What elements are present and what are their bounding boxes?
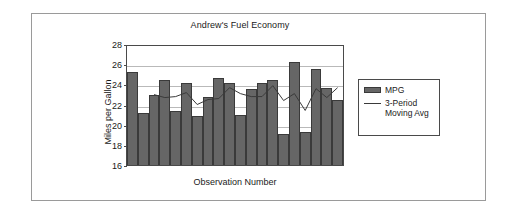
- y-axis-tick-28: 28: [100, 40, 122, 50]
- y-axis-tickmark: [124, 146, 127, 147]
- y-axis-tick-26: 26: [100, 60, 122, 70]
- bar: [127, 72, 138, 165]
- legend-item-mpg: MPG: [364, 85, 439, 95]
- y-axis-tick-20: 20: [100, 121, 122, 131]
- y-axis-tick-16: 16: [100, 161, 122, 171]
- bar: [213, 78, 224, 165]
- bar: [159, 80, 170, 165]
- legend-line-icon: [364, 100, 381, 104]
- bar: [203, 97, 214, 165]
- bar: [332, 100, 343, 165]
- y-axis-tickmark: [124, 85, 127, 86]
- y-axis-tickmark: [124, 45, 127, 46]
- bar: [192, 116, 203, 165]
- y-axis-tick-24: 24: [100, 80, 122, 90]
- chart-legend: MPG 3-Period Moving Avg: [358, 79, 440, 136]
- y-axis-tick-18: 18: [100, 141, 122, 151]
- plot-area: [126, 45, 344, 166]
- bar-series-mpg: [127, 46, 343, 165]
- legend-swatch-icon: [364, 87, 381, 93]
- bar: [311, 69, 322, 165]
- y-axis-tickmark: [124, 166, 127, 167]
- legend-item-moving-avg: 3-Period Moving Avg: [364, 98, 439, 118]
- y-axis-tickmark: [124, 126, 127, 127]
- y-axis-tickmark: [124, 65, 127, 66]
- chart-screenshot: Andrew's Fuel Economy Miles per Gallon 2…: [0, 0, 518, 219]
- bar: [235, 115, 246, 165]
- bar: [181, 83, 192, 165]
- bar: [138, 113, 149, 165]
- chart-title: Andrew's Fuel Economy: [120, 20, 360, 30]
- bar: [267, 80, 278, 165]
- bar: [289, 62, 300, 165]
- y-axis-tick-22: 22: [100, 101, 122, 111]
- bar: [224, 83, 235, 165]
- bar: [300, 132, 311, 165]
- bar: [170, 111, 181, 165]
- bar: [321, 88, 332, 165]
- y-axis-tick-labels: 28262422201816: [98, 45, 122, 166]
- legend-label-mpg: MPG: [385, 85, 404, 95]
- legend-label-moving-avg: 3-Period Moving Avg: [385, 98, 439, 118]
- bar: [278, 134, 289, 165]
- bar: [246, 89, 257, 165]
- bar: [257, 83, 268, 165]
- x-axis-title: Observation Number: [126, 177, 344, 187]
- y-axis-tickmark: [124, 106, 127, 107]
- bar: [149, 95, 160, 165]
